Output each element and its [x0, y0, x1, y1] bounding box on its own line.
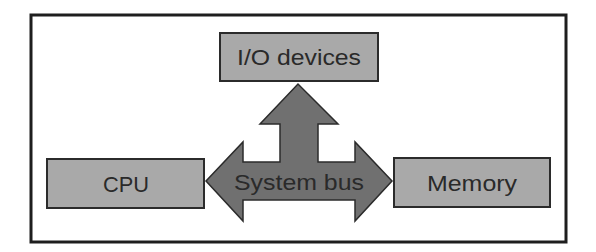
system-bus-diagram: I/O devices CPU Memory System bus [0, 0, 596, 252]
system-bus-label: System bus [234, 170, 364, 195]
memory-node: Memory [394, 158, 550, 207]
io-devices-label: I/O devices [237, 45, 361, 70]
io-devices-node: I/O devices [220, 33, 378, 81]
cpu-node: CPU [47, 159, 204, 208]
cpu-label: CPU [103, 172, 149, 197]
memory-label: Memory [427, 171, 517, 196]
